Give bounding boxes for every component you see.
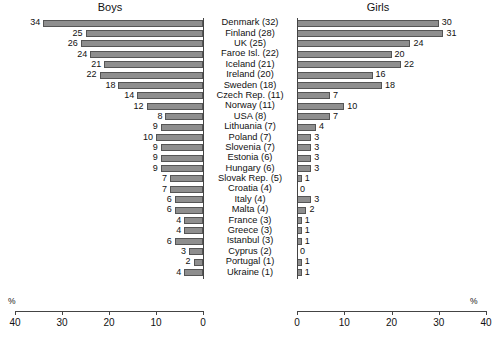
girls-value-label: 3	[314, 132, 319, 142]
girls-bar-cell: 0	[297, 184, 497, 194]
boys-value-label: 26	[68, 38, 78, 48]
girls-bar	[297, 207, 306, 214]
boys-value-label: 4	[176, 215, 181, 225]
girls-bar-cell: 22	[297, 60, 497, 70]
boys-bar-cell: 10	[0, 132, 203, 142]
girls-bar-cell: 2	[297, 205, 497, 215]
category-label: Istanbul (3)	[203, 235, 297, 245]
category-label: France (3)	[203, 215, 297, 225]
boys-value-label: 18	[105, 80, 115, 90]
boys-bar-cell: 21	[0, 60, 203, 70]
axis-tick	[156, 311, 157, 315]
girls-value-label: 10	[347, 101, 357, 111]
boys-value-label: 3	[181, 246, 186, 256]
axis-tick-label: 20	[377, 317, 407, 329]
category-label: Croatia (4)	[203, 183, 297, 193]
girls-bar	[297, 20, 439, 27]
axis-tick-label: 30	[47, 317, 77, 329]
boys-bar	[104, 61, 203, 68]
girls-bar-cell: 3	[297, 132, 497, 142]
girls-value-label: 3	[314, 142, 319, 152]
boys-bar-cell: 9	[0, 122, 203, 132]
girls-bar-cell: 3	[297, 143, 497, 153]
category-label: Estonia (6)	[203, 152, 297, 162]
panel-title-boys: Boys	[50, 1, 170, 14]
category-label: Malta (4)	[203, 204, 297, 214]
boys-value-label: 9	[153, 121, 158, 131]
boys-bar-cell: 4	[0, 215, 203, 225]
axis-tick-label: 10	[329, 317, 359, 329]
category-label: Lithuania (7)	[203, 121, 297, 131]
girls-bar	[297, 124, 316, 131]
girls-bar-cell: 4	[297, 122, 497, 132]
girls-bar-cell: 3	[297, 195, 497, 205]
girls-bar-cell: 1	[297, 267, 497, 277]
category-label: Norway (11)	[203, 100, 297, 110]
axis-tick-label: 10	[141, 317, 171, 329]
boys-value-label: 34	[30, 17, 40, 27]
boys-bar	[147, 103, 203, 110]
girls-bar-cell: 7	[297, 91, 497, 101]
boys-bar-cell: 4	[0, 267, 203, 277]
boys-bar-cell: 3	[0, 247, 203, 257]
boys-value-label: 12	[134, 101, 144, 111]
boys-value-label: 25	[72, 28, 82, 38]
boys-value-label: 6	[167, 194, 172, 204]
boys-bar-cell: 9	[0, 143, 203, 153]
boys-bar	[184, 217, 203, 224]
category-label: Italy (4)	[203, 194, 297, 204]
boys-value-label: 9	[153, 142, 158, 152]
axis-tick	[392, 311, 393, 315]
girls-value-label: 4	[319, 121, 324, 131]
boys-bar	[170, 175, 203, 182]
boys-bar-cell: 4	[0, 226, 203, 236]
boys-bar-cell: 8	[0, 112, 203, 122]
girls-value-label: 0	[300, 184, 305, 194]
girls-bar-cell: 1	[297, 226, 497, 236]
category-label: Iceland (21)	[203, 59, 297, 69]
axis-tick	[203, 311, 204, 315]
boys-value-label: 24	[77, 49, 87, 59]
boys-bar-cell: 6	[0, 236, 203, 246]
girls-value-label: 1	[305, 256, 310, 266]
girls-value-label: 1	[305, 267, 310, 277]
girls-bar-cell: 3	[297, 163, 497, 173]
girls-bar	[297, 92, 330, 99]
boys-bar	[184, 227, 203, 234]
boys-value-label: 9	[153, 152, 158, 162]
girls-value-label: 1	[305, 215, 310, 225]
girls-bar-cell: 16	[297, 70, 497, 80]
category-label: Sweden (18)	[203, 80, 297, 90]
category-label: Finland (28)	[203, 28, 297, 38]
axis-tick	[109, 311, 110, 315]
girls-value-label: 3	[314, 152, 319, 162]
girls-bar-cell: 30	[297, 18, 497, 28]
boys-value-label: 4	[176, 225, 181, 235]
boys-value-label: 6	[167, 236, 172, 246]
boys-baseline	[203, 18, 204, 279]
boys-bar-cell: 26	[0, 39, 203, 49]
axis-tick	[15, 311, 16, 315]
boys-value-label: 4	[176, 267, 181, 277]
boys-bar-cell: 9	[0, 153, 203, 163]
axis-tick	[297, 311, 298, 315]
boys-bar-cell: 24	[0, 49, 203, 59]
axis-tick-label: 0	[188, 317, 218, 329]
category-label: Greece (3)	[203, 225, 297, 235]
boys-bar	[189, 248, 203, 255]
boys-bar-cell: 18	[0, 80, 203, 90]
axis-tick-label: 0	[282, 317, 312, 329]
girls-bar	[297, 165, 311, 172]
boys-bar-cell: 14	[0, 91, 203, 101]
boys-value-label: 7	[162, 173, 167, 183]
girls-value-label: 31	[446, 28, 456, 38]
axis-tick	[486, 311, 487, 315]
population-pyramid-chart: Boys Girls 34Denmark (32)3025Finland (28…	[0, 0, 497, 348]
boys-value-label: 14	[124, 90, 134, 100]
girls-value-label: 0	[300, 246, 305, 256]
girls-bar	[297, 30, 443, 37]
girls-value-label: 3	[314, 194, 319, 204]
boys-value-label: 7	[162, 184, 167, 194]
axis-tick	[439, 311, 440, 315]
category-label: Poland (7)	[203, 132, 297, 142]
